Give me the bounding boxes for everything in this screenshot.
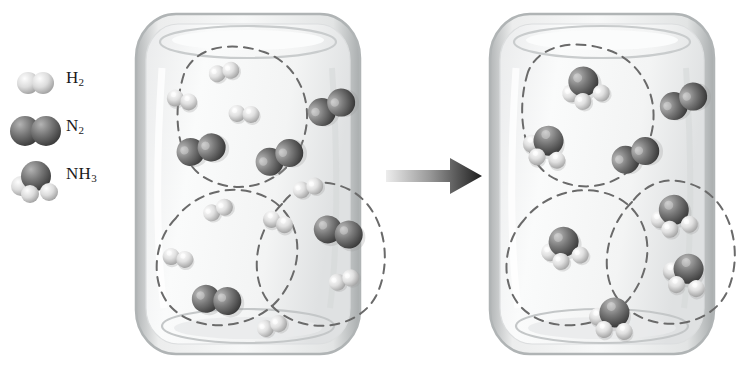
reaction-arrow-right [384,152,484,200]
n2-molecule-icon [8,108,64,154]
reactants-container [132,8,364,360]
legend-label-nh3: NH3 [66,164,97,184]
products-container [486,8,718,360]
figure-canvas: H2 N2 [0,0,738,379]
legend-row-nh3: NH3 [0,156,130,202]
legend-row-h2: H2 [0,60,130,106]
nh3-molecule-icon [8,156,64,202]
legend: H2 N2 [0,0,130,379]
legend-row-n2: N2 [0,108,130,154]
legend-label-n2: N2 [66,116,84,136]
legend-label-h2: H2 [66,68,84,88]
h2-molecule-icon [8,60,64,106]
